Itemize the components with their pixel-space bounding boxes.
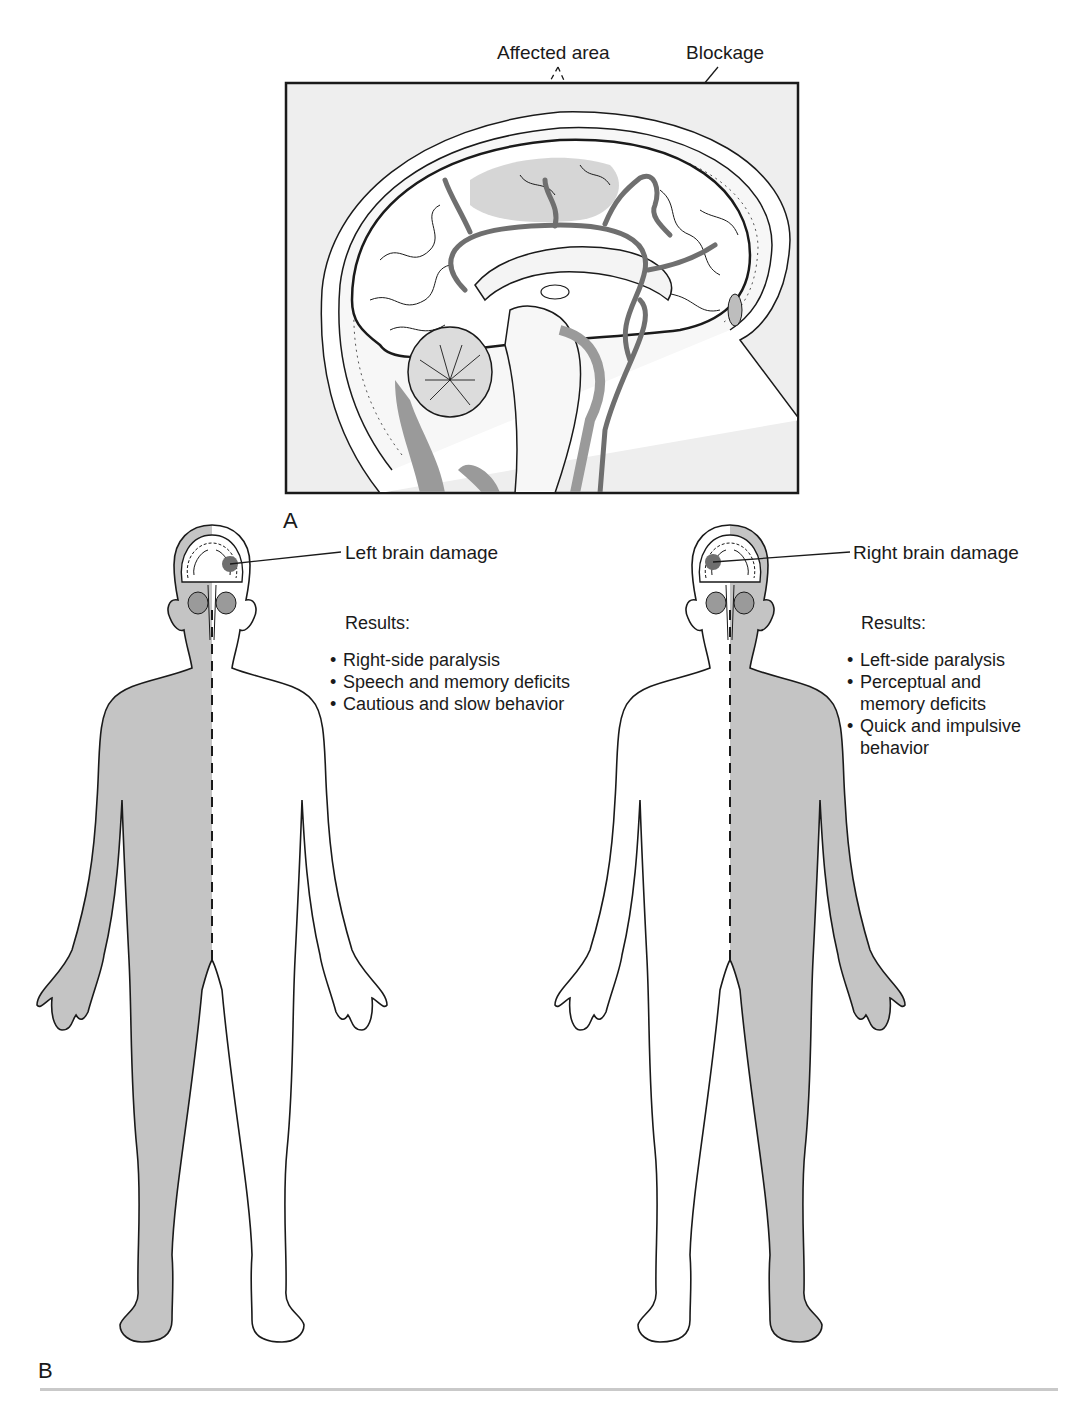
- cerebellum: [408, 327, 492, 417]
- panel-letter-b: B: [38, 1358, 53, 1384]
- right-figure: [555, 525, 905, 1342]
- body-figures: [0, 500, 1074, 1400]
- brain-sagittal-illustration: [0, 0, 1074, 520]
- bottom-divider: [40, 1388, 1058, 1391]
- left-figure: [37, 525, 387, 1342]
